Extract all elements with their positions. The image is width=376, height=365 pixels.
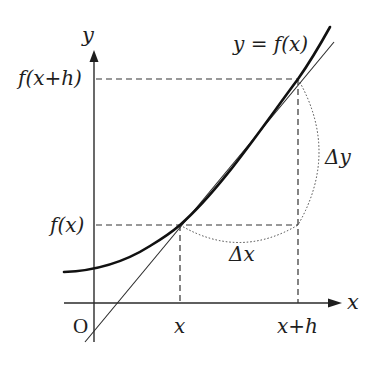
x-axis [64, 299, 342, 308]
curve-label: y = f(x) [232, 32, 308, 56]
function-curve [64, 27, 330, 272]
xh-tick-label: x+h [277, 314, 318, 338]
y-axis-label: y [81, 23, 95, 47]
delta-x-arc [180, 225, 298, 243]
guide-lines [96, 79, 298, 303]
fxh-label: f(x+h) [16, 66, 82, 90]
delta-y-arc [298, 79, 319, 225]
delta-y-label: Δy [324, 145, 351, 169]
x-axis-arrow-icon [328, 299, 342, 308]
fx-label: f(x) [48, 213, 84, 237]
origin-label: O [73, 314, 88, 338]
secant-line [85, 42, 334, 342]
y-axis-arrow-icon [90, 50, 99, 62]
y-axis [90, 50, 99, 342]
derivative-diagram: y x O y = f(x) f(x+h) f(x) x x+h Δx Δy [0, 0, 376, 365]
x-axis-label: x [347, 290, 359, 314]
x-tick-label: x [174, 314, 185, 338]
delta-x-label: Δx [228, 242, 255, 266]
